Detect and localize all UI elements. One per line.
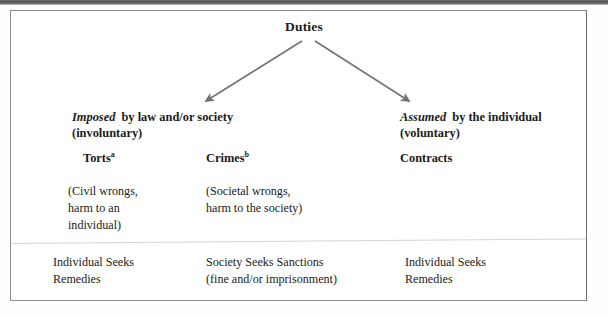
column-heading-torts: Tortsa <box>83 151 115 166</box>
footnote-marker-a: a <box>111 150 115 159</box>
top-horizontal-rule <box>0 0 608 5</box>
branch-imposed-line1: Imposed by law and/or society <box>72 110 233 126</box>
branch-assumed-keyword: Assumed <box>400 110 449 124</box>
column-outcome-torts: Individual Seeks Remedies <box>53 254 134 288</box>
branch-assumed-line1: Assumed by the individual <box>400 110 542 126</box>
column-description-torts: (Civil wrongs, harm to an individual) <box>68 183 138 234</box>
column-heading-crimes: Crimesb <box>206 151 249 166</box>
branch-assumed-qualifier: (voluntary) <box>400 126 542 142</box>
column-description-crimes: (Societal wrongs, harm to the society) <box>206 183 302 217</box>
branch-imposed-keyword: Imposed <box>72 110 118 124</box>
branch-assumed-rest: by the individual <box>449 110 542 124</box>
branch-header-assumed: Assumed by the individual (voluntary) <box>400 110 542 141</box>
column-heading-contracts: Contracts <box>400 151 452 166</box>
column-heading-contracts-label: Contracts <box>400 151 452 165</box>
figure-page: Duties Imposed by law and/or society (in… <box>0 0 608 315</box>
column-heading-torts-label: Torts <box>83 151 111 165</box>
footnote-marker-b: b <box>245 150 249 159</box>
column-outcome-crimes: Society Seeks Sanctions (fine and/or imp… <box>206 254 337 288</box>
column-outcome-contracts: Individual Seeks Remedies <box>405 254 486 288</box>
branch-header-imposed: Imposed by law and/or society (involunta… <box>72 110 233 141</box>
branch-imposed-rest: by law and/or society <box>118 110 233 124</box>
column-heading-crimes-label: Crimes <box>206 151 245 165</box>
branch-imposed-qualifier: (involuntary) <box>72 126 233 142</box>
figure-title: Duties <box>0 19 608 35</box>
